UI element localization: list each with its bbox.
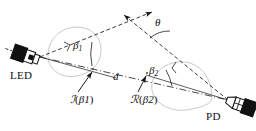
responsivity-function-label: ℛ(β2) bbox=[130, 94, 157, 105]
beta2-cone-edge bbox=[146, 75, 228, 100]
theta-angle-arc bbox=[150, 31, 170, 38]
beta2-angle-arc bbox=[166, 70, 172, 86]
beta2-subscript: 2 bbox=[154, 69, 158, 78]
pd-device-icon bbox=[224, 93, 256, 120]
responsivity-close-paren: ) bbox=[154, 93, 158, 105]
responsivity-script-symbol: ℛ bbox=[130, 93, 139, 106]
irradiance-close-paren: ) bbox=[90, 93, 94, 105]
beta1-label: β1 bbox=[73, 40, 82, 52]
figure-canvas: LED PD β1 β2 θ d ℐ(β1) ℛ(β2) bbox=[0, 0, 256, 131]
responsivity-pointer-arrow bbox=[138, 76, 146, 92]
beta2-right-angle-tick bbox=[172, 62, 176, 73]
responsivity-point-marker bbox=[146, 72, 148, 74]
irradiance-function-label: ℐ(β1) bbox=[70, 94, 93, 105]
beta1-angle-arc bbox=[91, 42, 92, 66]
theta-label: θ bbox=[155, 17, 160, 28]
distance-label: d bbox=[113, 71, 119, 82]
led-device-icon bbox=[3, 41, 41, 67]
pd-label: PD bbox=[206, 111, 221, 122]
irradiance-point-marker bbox=[92, 68, 94, 70]
beta2-label: β2 bbox=[149, 65, 158, 77]
pd-normal-axis bbox=[124, 15, 228, 100]
beta1-subscript: 1 bbox=[78, 44, 82, 53]
led-label: LED bbox=[10, 70, 32, 81]
